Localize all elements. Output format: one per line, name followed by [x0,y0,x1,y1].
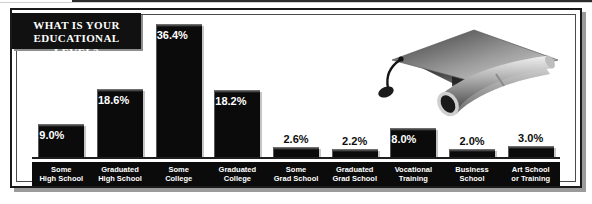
bar-column: 2.2% [332,14,378,157]
category-label-line-1: Graduated [219,165,257,174]
page-title-line-1: WHAT IS YOUR [12,19,141,32]
category-label-line-2: Grad School [332,174,377,183]
category-label-line-1: Some [286,165,306,174]
bar-value-label: 9.0% [39,129,64,141]
page-title-line-2: EDUCATIONAL LEVEL? [12,32,141,59]
category-label: BusinessSchool [443,162,502,186]
bar: 9.0% [38,124,84,157]
category-label: GraduatedCollege [208,162,267,186]
bar [273,147,319,157]
category-label-line-2: or Training [511,174,550,183]
category-label: SomeCollege [149,162,208,186]
category-label-line-2: High School [39,174,83,183]
category-label-strip: SomeHigh SchoolGraduatedHigh SchoolSomeC… [32,162,560,186]
chart-baseline [32,157,560,159]
category-label: SomeGrad School [267,162,326,186]
category-label-line-1: Graduated [101,165,139,174]
bar: 18.6% [97,89,143,157]
bar-value-label: 2.0% [459,135,484,147]
bar [508,146,554,157]
page-top-rule-secondary [0,2,592,3]
category-label-line-2: College [224,174,251,183]
bar-column: 3.0% [508,14,554,157]
bar: 8.0% [390,128,436,157]
category-label-line-1: Business [455,165,488,174]
category-label-line-2: College [165,174,192,183]
category-label-line-2: Training [399,174,428,183]
bar-value-label: 2.6% [283,133,308,145]
category-label-line-2: Grad School [274,174,319,183]
chart-title-plaque: WHAT IS YOUR EDUCATIONAL LEVEL? [12,13,141,49]
bar: 18.2% [214,90,260,157]
bar: 36.4% [156,24,202,157]
bar-value-label: 8.0% [391,133,416,145]
category-label: Art Schoolor Training [501,162,560,186]
bar [332,149,378,157]
category-label-line-2: School [460,174,485,183]
bar [449,149,495,157]
category-label-line-2: High School [98,174,142,183]
bar-column: 8.0% [390,14,436,157]
bar-value-label: 2.2% [342,135,367,147]
bar-value-label: 3.0% [518,132,543,144]
bar-column: 2.6% [273,14,319,157]
bar-column: 2.0% [449,14,495,157]
bar-value-label: 18.2% [215,95,246,107]
category-label-line-1: Art School [512,165,550,174]
category-label: SomeHigh School [32,162,91,186]
category-label: VocationalTraining [384,162,443,186]
category-label-line-1: Vocational [395,165,432,174]
category-label: GraduatedHigh School [91,162,150,186]
bar-value-label: 36.4% [157,29,188,41]
bar-value-label: 18.6% [98,94,129,106]
category-label: GraduatedGrad School [325,162,384,186]
bar-column: 36.4% [156,14,202,157]
bar-column: 18.2% [214,14,260,157]
category-label-line-1: Some [51,165,71,174]
category-label-line-1: Graduated [336,165,374,174]
category-label-line-1: Some [168,165,188,174]
